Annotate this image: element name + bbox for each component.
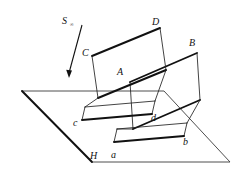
shadow-cd-bottom	[82, 114, 152, 120]
shadow-quad-ab	[114, 123, 187, 142]
label-plane-H: H	[89, 150, 98, 161]
label-shadow-d: d	[151, 112, 157, 123]
edge-A-down	[130, 82, 133, 129]
label-vertex-A: A	[116, 66, 124, 77]
edge-C-D	[92, 28, 160, 56]
label-vertex-C: C	[82, 47, 89, 58]
light-ray-arrowhead	[66, 70, 72, 78]
edge-bottom-front	[98, 70, 166, 98]
label-light-source: S	[62, 15, 67, 26]
light-ray-line	[69, 25, 82, 73]
light-ray-group	[66, 25, 82, 78]
plane-h-left-edge	[22, 91, 92, 162]
shadow-ab-top	[117, 123, 187, 129]
label-shadow-b: b	[183, 136, 188, 147]
shadow-cd-left	[82, 107, 85, 120]
edge-C-down	[92, 56, 98, 98]
shadow-quad-cd	[82, 101, 155, 120]
label-light-source-subscript: ∞	[70, 22, 74, 27]
shadow-projection-diagram: S ∞ A B C D a b c d H	[0, 0, 248, 183]
parallelogram-cd-front	[92, 28, 166, 98]
shadow-cd-top	[85, 101, 155, 107]
label-vertex-B: B	[189, 37, 195, 48]
label-shadow-a: a	[111, 149, 116, 160]
shadow-ab-right	[184, 123, 187, 136]
edge-D-down	[160, 28, 166, 70]
shadow-ab-bottom	[114, 136, 184, 142]
edge-B-down	[197, 53, 200, 100]
label-vertex-D: D	[151, 16, 160, 27]
shadow-ab-left	[114, 129, 117, 142]
label-shadow-c: c	[73, 117, 78, 128]
